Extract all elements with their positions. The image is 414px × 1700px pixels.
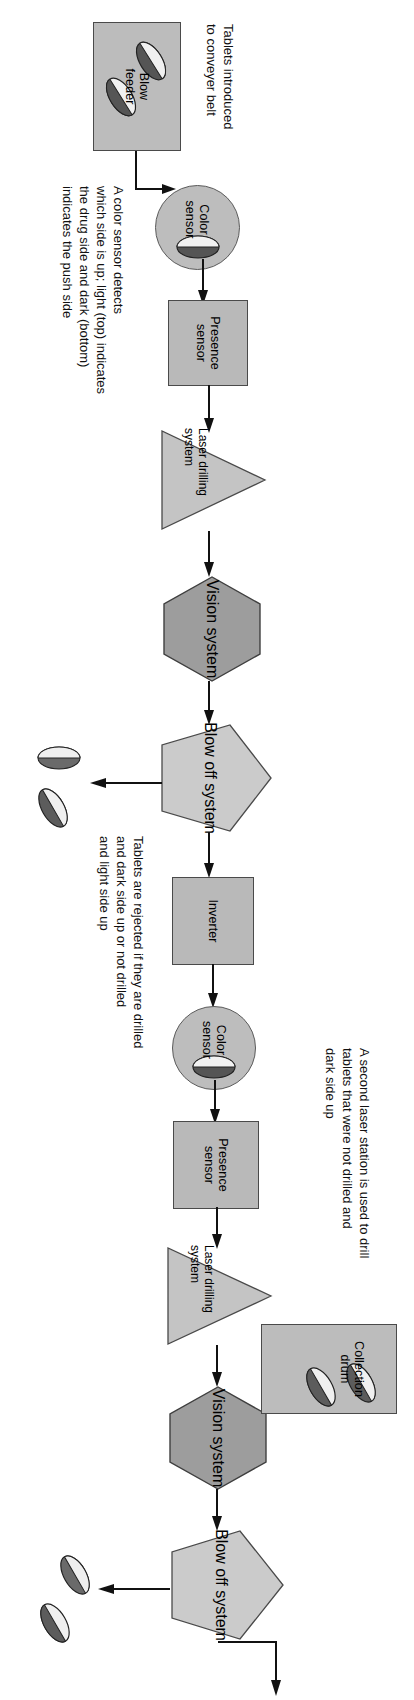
arrow-laser-drilling-2-to-vision-system-2 bbox=[204, 1345, 228, 1389]
rejected-tablet-icon bbox=[34, 744, 84, 772]
node-presence-sensor-2: Presence sensor bbox=[173, 1121, 259, 1209]
node-laser-drilling-system-2-label: Laser drilling system bbox=[164, 1245, 274, 1347]
arrow-vision-system-2-to-blow-off-2 bbox=[204, 1489, 228, 1533]
node-laser-drilling-system-1: Laser drilling system bbox=[158, 428, 268, 532]
node-vision-system-1-label: Vision system bbox=[162, 575, 262, 683]
node-laser-drilling-system-1-label: Laser drilling system bbox=[158, 428, 268, 532]
node-color-sensor-1-label: Color sensor bbox=[184, 200, 212, 238]
node-inverter-label: Inverter bbox=[206, 899, 220, 942]
node-presence-sensor-2-label: Presence sensor bbox=[202, 1138, 230, 1192]
annotation-reject: Tablets are rejected if they are drilled… bbox=[95, 836, 146, 1186]
arrow-blow-off-1-reject bbox=[88, 772, 162, 796]
node-blow-off-system-1: Blow off system bbox=[158, 722, 274, 834]
arrow-blow-off-2-reject bbox=[96, 1578, 170, 1602]
node-blow-off-system-1-label: Blow off system bbox=[158, 722, 274, 834]
arrow-inverter-to-color-sensor-2 bbox=[200, 964, 224, 1010]
annotation-second-laser: A second laser station is used to drill … bbox=[321, 1048, 372, 1378]
rejected-tablet-icon bbox=[38, 1600, 72, 1646]
arrow-blow-off-2-to-collection-drum bbox=[212, 1618, 322, 1700]
rejected-tablet-icon bbox=[58, 1552, 92, 1598]
node-color-sensor-2-label: Color sensor bbox=[200, 1021, 228, 1059]
arrow-vision-system-1-to-blow-off-1 bbox=[196, 681, 220, 727]
arrow-color-sensor-2-to-presence-sensor-2 bbox=[202, 1080, 226, 1126]
node-vision-system-2: Vision system bbox=[168, 1385, 268, 1491]
rejected-tablet-icon bbox=[36, 785, 70, 831]
node-inverter: Inverter bbox=[172, 877, 254, 965]
node-blow-feeder-label: Blow feeder bbox=[123, 68, 151, 104]
node-presence-sensor-1-label: Presence sensor bbox=[194, 316, 222, 370]
node-vision-system-1: Vision system bbox=[162, 575, 262, 683]
arrow-laser-drilling-1-to-vision-system-1 bbox=[196, 531, 220, 579]
node-collection-drum-label: Collection drum bbox=[338, 1341, 366, 1397]
node-vision-system-2-label: Vision system bbox=[168, 1385, 268, 1491]
annotation-color-sensor: A color sensor detects which side is up;… bbox=[58, 186, 126, 516]
arrow-blow-off-1-to-inverter bbox=[196, 832, 220, 880]
node-presence-sensor-1: Presence sensor bbox=[168, 300, 248, 386]
node-laser-drilling-system-2: Laser drilling system bbox=[164, 1245, 274, 1347]
